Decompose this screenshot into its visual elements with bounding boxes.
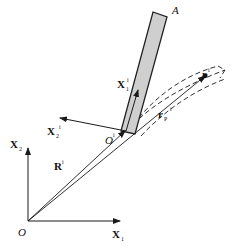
label-global-origin: O (18, 226, 26, 238)
svg-text:X: X (10, 138, 18, 150)
label-local-x2: X 2 i (47, 124, 61, 139)
svg-text:X: X (112, 228, 120, 240)
position-vector-rp (28, 76, 205, 221)
label-bar-end-A: A (171, 4, 179, 16)
label-global-x1: X 1 (112, 228, 124, 242)
svg-text:2: 2 (56, 133, 59, 139)
label-position-R: R i (54, 159, 64, 172)
svg-text:O: O (18, 226, 26, 238)
label-point-P: P i (200, 67, 210, 82)
svg-text:i: i (62, 159, 64, 165)
label-local-origin: O i (105, 132, 115, 146)
svg-text:r: r (158, 108, 163, 120)
svg-text:i: i (208, 67, 210, 73)
svg-text:2: 2 (19, 146, 22, 152)
svg-text:X: X (47, 125, 55, 137)
svg-text:X: X (117, 78, 125, 90)
svg-text:1: 1 (121, 236, 124, 242)
svg-text:i: i (113, 132, 115, 138)
svg-text:O: O (105, 134, 113, 146)
local-x2-axis (60, 118, 126, 131)
svg-text:P: P (200, 70, 208, 82)
svg-text:i: i (127, 77, 129, 83)
label-local-x1: X 1 i (117, 77, 129, 92)
label-global-x2: X 2 (10, 138, 22, 152)
svg-text:P: P (164, 116, 168, 122)
diagram-canvas: A O X 1 X 2 R i r P i P i O i X 2 i X 1 … (0, 0, 237, 251)
svg-text:i: i (170, 106, 172, 112)
svg-text:1: 1 (126, 86, 129, 92)
svg-text:i: i (59, 124, 61, 130)
